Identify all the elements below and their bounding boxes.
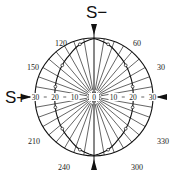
- center-dot: [99, 96, 100, 97]
- radial-label-left: 30: [32, 93, 40, 102]
- angle-label-60: 60: [133, 40, 141, 48]
- curve-marker: [61, 64, 64, 67]
- radial-spoke: [95, 39, 104, 90]
- top-arrow-icon: [91, 24, 97, 35]
- curve-marker: [78, 43, 81, 46]
- radial-label-left: 20: [51, 93, 59, 102]
- curve-marker: [78, 148, 81, 151]
- curve-marker: [54, 106, 57, 109]
- curve-marker: [107, 148, 110, 151]
- curve-marker: [131, 106, 134, 109]
- center-dot: [87, 96, 88, 97]
- angle-label-210: 210: [28, 138, 40, 146]
- curve-marker: [131, 85, 134, 88]
- radial-spoke: [84, 39, 93, 90]
- curve-marker: [61, 127, 64, 130]
- curve-marker: [107, 43, 110, 46]
- angle-label-240: 240: [58, 164, 70, 172]
- radial-spoke: [95, 104, 104, 155]
- s-minus-label: S−: [86, 4, 107, 21]
- curve-marker: [54, 85, 57, 88]
- radial-label-right: 20: [129, 93, 137, 102]
- bottom-arrow-icon: [91, 159, 97, 170]
- radial-label-right: 10: [110, 93, 118, 102]
- angle-label-120: 120: [55, 40, 67, 48]
- angle-label-330: 330: [157, 138, 169, 146]
- angle-label-150: 150: [27, 64, 39, 72]
- curve-marker: [124, 64, 127, 67]
- radial-spoke: [84, 104, 93, 155]
- radial-label-right: 30: [149, 93, 157, 102]
- curve-marker: [124, 127, 127, 130]
- polar-diagram: 3020101020300: [0, 0, 188, 189]
- angle-label-300: 300: [131, 164, 143, 172]
- radial-label-left: 10: [71, 93, 79, 102]
- s-plus-label: S+: [5, 89, 26, 106]
- angle-label-30: 30: [157, 64, 165, 72]
- center-label: 0: [92, 93, 96, 102]
